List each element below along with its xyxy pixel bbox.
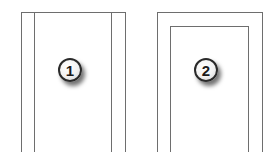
fig1-inner-left: [34, 12, 35, 152]
number-badge-2: 2: [194, 58, 218, 82]
fig2-inner-top: [170, 26, 249, 27]
fig2-outer-top: [157, 12, 263, 13]
fig1-outer-right: [125, 12, 126, 152]
fig2-inner-right: [248, 26, 249, 152]
fig1-outer-left: [21, 12, 22, 152]
fig2-outer-right: [262, 12, 263, 152]
fig2-outer-left: [157, 12, 158, 152]
fig1-inner-right: [111, 12, 112, 152]
number-badge-1: 1: [58, 58, 82, 82]
fig2-inner-left: [170, 26, 171, 152]
